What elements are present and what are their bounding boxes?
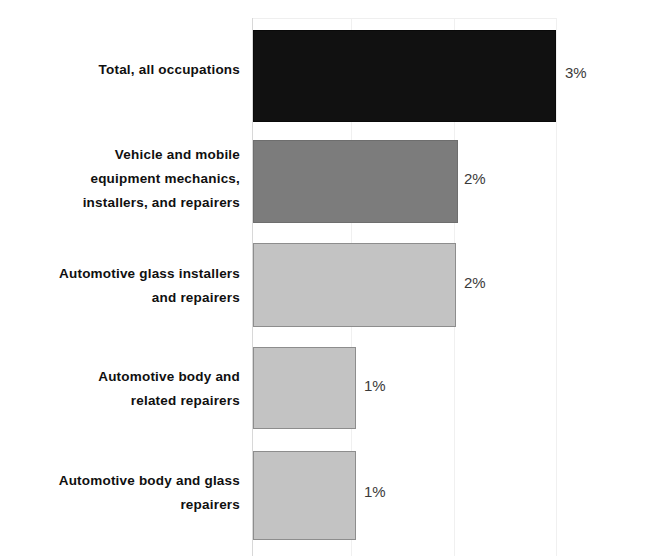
category-label-line: Automotive body and [0, 365, 240, 389]
category-label: Vehicle and mobile equipment mechanics, … [0, 143, 240, 215]
category-label: Automotive body and related repairers [0, 365, 240, 413]
bar-value-label: 1% [364, 377, 386, 394]
category-label-line: Automotive body and glass [0, 469, 240, 493]
bar-value-label: 2% [464, 170, 486, 187]
category-label: Automotive body and glass repairers [0, 469, 240, 517]
category-label-line: equipment mechanics, [0, 167, 240, 191]
category-label-line: installers, and repairers [0, 191, 240, 215]
category-label-line: Total, all occupations [0, 58, 240, 82]
category-label-line: and repairers [0, 286, 240, 310]
bar-automotive-glass-installers[interactable] [253, 243, 456, 327]
bar-automotive-body-glass-repairers[interactable] [253, 451, 356, 540]
chart-title [0, 0, 651, 4]
category-label: Automotive glass installers and repairer… [0, 262, 240, 310]
category-label-line: Automotive glass installers [0, 262, 240, 286]
gridline-3 [556, 19, 557, 556]
bar-total-all-occupations[interactable] [253, 30, 556, 122]
category-label-line: related repairers [0, 389, 240, 413]
bar-vehicle-mobile-equipment-mechanics[interactable] [253, 140, 458, 223]
bar-value-label: 3% [565, 64, 587, 81]
bar-automotive-body-related-repairers[interactable] [253, 347, 356, 429]
bar-value-label: 1% [364, 483, 386, 500]
category-label: Total, all occupations [0, 58, 240, 82]
category-label-line: Vehicle and mobile [0, 143, 240, 167]
bar-value-label: 2% [464, 274, 486, 291]
bar-chart: Total, all occupations 3% Vehicle and mo… [0, 0, 651, 556]
category-label-line: repairers [0, 493, 240, 517]
